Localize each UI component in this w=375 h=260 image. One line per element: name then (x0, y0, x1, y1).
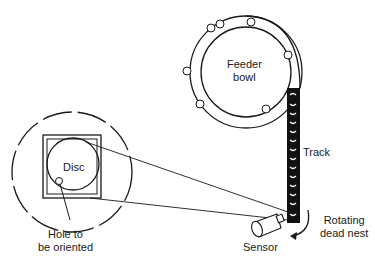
sensor (250, 214, 285, 238)
label-line: Feeder (227, 58, 262, 71)
feeder-diagram (0, 0, 375, 260)
track-label: Track (303, 146, 330, 159)
hole (56, 178, 63, 185)
sensor-label: Sensor (243, 241, 278, 254)
label-line: Hole to (38, 228, 93, 241)
label-line: bowl (227, 71, 262, 84)
label-line: be oriented (38, 241, 93, 254)
hole-label: Hole to be oriented (38, 228, 93, 254)
disc-label: Disc (63, 161, 84, 174)
track (287, 88, 300, 223)
label-line: Rotating (320, 214, 368, 227)
label-line: dead nest (320, 227, 368, 240)
feeder-bowl-label: Feeder bowl (227, 58, 262, 84)
rotating-dead-nest-label: Rotating dead nest (320, 214, 368, 240)
